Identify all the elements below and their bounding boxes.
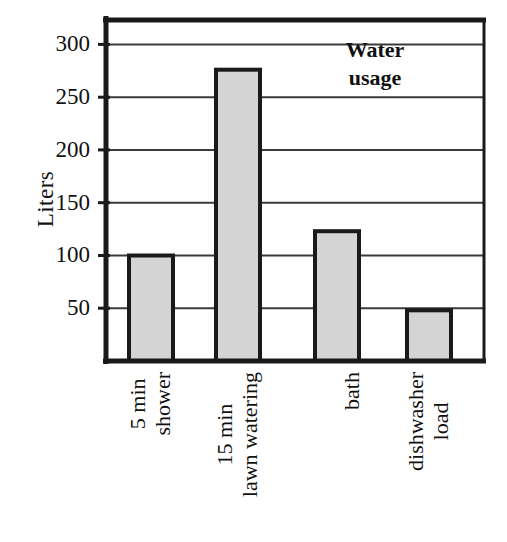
- bar-15-min-lawn-watering: [216, 70, 260, 361]
- x-label-line: 5 min: [126, 372, 151, 436]
- y-tick-label-100: 100: [28, 243, 90, 266]
- bar-5-min-shower: [129, 256, 173, 362]
- y-tick-label-300: 300: [28, 32, 90, 55]
- y-tick-label-250: 250: [28, 85, 90, 108]
- y-tick-label-50: 50: [28, 296, 90, 319]
- chart-title: Water usage: [300, 36, 450, 91]
- y-tick-label-200: 200: [28, 138, 90, 161]
- x-axis-label-15-min-lawn-watering: 15 min lawn watering: [212, 372, 264, 540]
- x-axis-label-dishwasher-load: dishwasher load: [403, 372, 455, 540]
- x-axis-label-bath: bath: [326, 372, 378, 540]
- x-label-line: dishwasher: [404, 372, 429, 471]
- x-axis-label-5-min-shower: 5 min shower: [125, 372, 177, 540]
- water-usage-bar-chart: Liters 300 250 200 150 100 50 Water usag…: [0, 0, 507, 542]
- x-label-line: load: [429, 372, 454, 471]
- x-label-line: lawn watering: [238, 372, 263, 497]
- chart-title-line-1: Water: [300, 36, 450, 64]
- x-label-line: bath: [340, 372, 365, 410]
- x-label-line: 15 min: [213, 372, 238, 497]
- bar-dishwasher-load: [407, 310, 451, 361]
- y-tick-label-150: 150: [28, 191, 90, 214]
- chart-title-line-2: usage: [300, 64, 450, 92]
- x-label-line: shower: [151, 372, 176, 436]
- bar-bath: [315, 231, 359, 361]
